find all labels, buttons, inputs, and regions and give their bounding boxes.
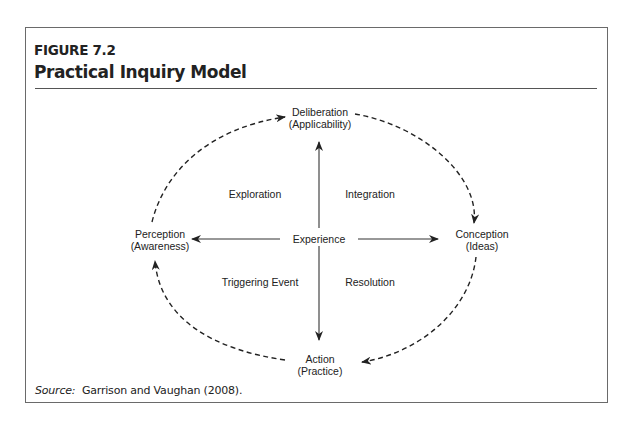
node-conception-subtitle: (Ideas) — [437, 240, 527, 252]
node-deliberation-title: Deliberation — [270, 106, 370, 118]
node-deliberation-subtitle: (Applicability) — [270, 118, 370, 130]
node-action: Action (Practice) — [275, 353, 365, 377]
arc-conception-to-action — [362, 257, 476, 362]
source-label: Source: — [35, 384, 75, 397]
node-perception-title: Perception — [115, 228, 205, 240]
quadrant-resolution: Resolution — [330, 276, 410, 288]
node-perception: Perception (Awareness) — [115, 228, 205, 252]
quadrant-integration: Integration — [330, 188, 410, 200]
arc-perception-to-deliberation — [152, 117, 285, 222]
quadrant-triggering-event: Triggering Event — [210, 276, 310, 288]
node-perception-subtitle: (Awareness) — [115, 240, 205, 252]
node-conception: Conception (Ideas) — [437, 228, 527, 252]
arc-deliberation-to-conception — [355, 114, 474, 223]
source-citation: Source: Garrison and Vaughan (2008). — [35, 384, 242, 397]
node-conception-title: Conception — [437, 228, 527, 240]
node-deliberation: Deliberation (Applicability) — [270, 106, 370, 130]
quadrant-exploration: Exploration — [210, 188, 300, 200]
center-experience: Experience — [280, 233, 358, 245]
node-action-title: Action — [275, 353, 365, 365]
node-action-subtitle: (Practice) — [275, 365, 365, 377]
source-text: Garrison and Vaughan (2008). — [82, 384, 242, 397]
